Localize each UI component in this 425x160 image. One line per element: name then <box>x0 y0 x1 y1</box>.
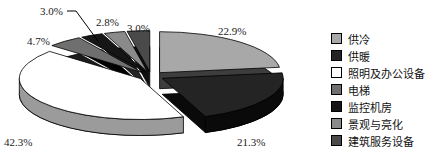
legend-swatch-building-services <box>331 135 342 146</box>
pie-label-monitoring-room: 3.0% <box>40 5 63 17</box>
legend-swatch-monitoring-room <box>331 101 342 112</box>
legend: 供冷 供暖 照明及办公设备 电梯 监控机房 景观与亮化 建筑服务设备 <box>331 30 425 149</box>
legend-label-building-services: 建筑服务设备 <box>348 133 414 149</box>
legend-label-cooling: 供冷 <box>348 31 370 47</box>
pie-label-lighting-office: 42.3% <box>4 136 32 148</box>
pie-chart-figure: 3.0% 2.8% 3.0% 4.7% 22.9% 21.3% 42.3% 供冷… <box>0 0 425 160</box>
pie-label-landscape-lighting: 2.8% <box>96 16 119 28</box>
legend-item-elevator: 电梯 <box>331 81 425 98</box>
pie-label-heating: 21.3% <box>237 136 265 148</box>
legend-swatch-elevator <box>331 84 342 95</box>
legend-swatch-heating <box>331 50 342 61</box>
legend-swatch-landscape-lighting <box>331 118 342 129</box>
legend-swatch-lighting-office <box>331 67 342 78</box>
legend-item-monitoring-room: 监控机房 <box>331 98 425 115</box>
legend-label-lighting-office: 照明及办公设备 <box>348 65 425 81</box>
legend-item-cooling: 供冷 <box>331 30 425 47</box>
legend-item-building-services: 建筑服务设备 <box>331 132 425 149</box>
pie-label-elevator: 4.7% <box>27 35 50 47</box>
legend-swatch-cooling <box>331 33 342 44</box>
legend-label-landscape-lighting: 景观与亮化 <box>348 116 403 132</box>
pie-label-cooling: 22.9% <box>218 25 246 37</box>
pie-label-building-services: 3.0% <box>127 22 150 34</box>
legend-item-landscape-lighting: 景观与亮化 <box>331 115 425 132</box>
legend-label-heating: 供暖 <box>348 48 370 64</box>
legend-label-elevator: 电梯 <box>348 82 370 98</box>
pie-slice-0-top <box>160 32 280 73</box>
legend-item-heating: 供暖 <box>331 47 425 64</box>
legend-item-lighting-office: 照明及办公设备 <box>331 64 425 81</box>
legend-label-monitoring-room: 监控机房 <box>348 99 392 115</box>
pie-slices-group <box>19 31 283 136</box>
